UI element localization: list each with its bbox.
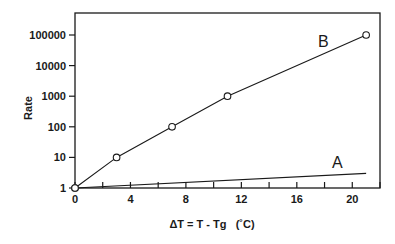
chart: 110100100010000100000 048121620 BA Rate …: [0, 0, 395, 244]
origin-marker: [72, 185, 79, 192]
data-point-marker: [169, 124, 176, 131]
y-axis-title: Rate: [22, 96, 34, 120]
y-tick-label: 10: [54, 151, 66, 163]
x-tick-label: 0: [72, 193, 78, 205]
data-point-marker: [113, 154, 120, 161]
series-line-b: [75, 35, 366, 188]
series-line-a: [75, 173, 366, 188]
data-point-marker: [224, 93, 231, 100]
series-group: BA: [72, 32, 370, 192]
x-tick-label: 20: [346, 193, 358, 205]
y-tick-label: 100: [48, 121, 66, 133]
data-point-marker: [363, 32, 370, 39]
x-tick-label: 4: [127, 193, 134, 205]
y-tick-label: 10000: [35, 60, 66, 72]
y-tick-label: 1: [60, 182, 66, 194]
series-label-a: A: [332, 154, 343, 171]
series-label-b: B: [318, 33, 329, 50]
y-axis: 110100100010000100000: [29, 29, 75, 194]
y-tick-label: 1000: [42, 90, 66, 102]
x-tick-label: 8: [183, 193, 189, 205]
x-tick-label: 12: [235, 193, 247, 205]
x-tick-label: 16: [291, 193, 303, 205]
x-axis-title: ΔT = T - Tg (˚C): [169, 218, 255, 230]
y-tick-label: 100000: [29, 29, 66, 41]
